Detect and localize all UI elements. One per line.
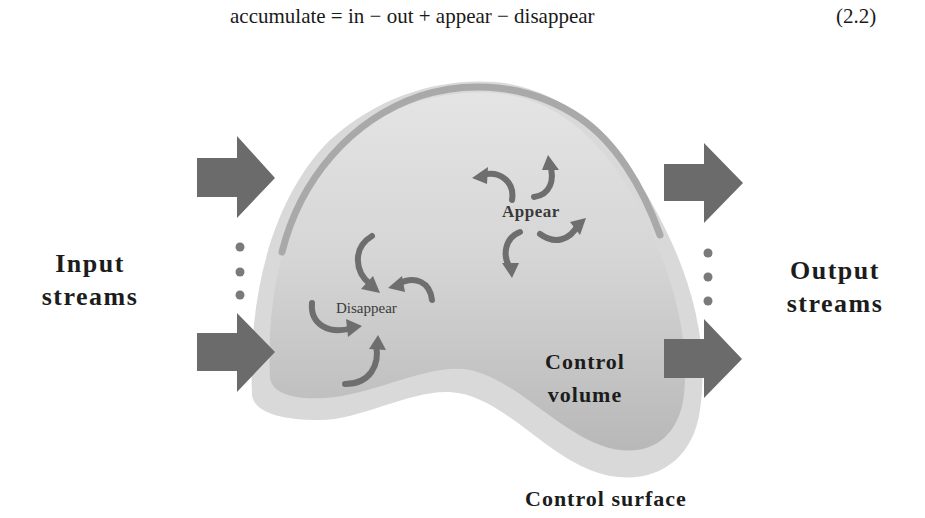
output-arrow-top — [664, 143, 743, 223]
input-label-line2: streams — [30, 280, 150, 313]
control-volume-line1: Control — [525, 345, 645, 378]
output-label-line1: Output — [770, 254, 900, 287]
output-label-line2: streams — [770, 287, 900, 320]
output-ellipsis-icon — [704, 249, 713, 306]
control-volume-line2: volume — [525, 378, 645, 411]
input-ellipsis-icon — [236, 243, 245, 300]
control-surface-label: Control surface — [525, 484, 687, 514]
input-label-line1: Input — [30, 247, 150, 280]
control-volume-label: Control volume — [525, 345, 645, 411]
appear-label: Appear — [502, 202, 560, 222]
input-arrow-top — [197, 136, 275, 218]
disappear-label: Disappear — [336, 300, 397, 317]
output-streams-label: Output streams — [770, 254, 900, 320]
input-streams-label: Input streams — [30, 247, 150, 313]
